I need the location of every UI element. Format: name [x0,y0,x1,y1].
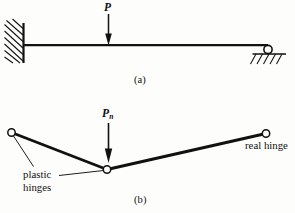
leader-line-plastic-hinge-mid [59,171,104,176]
real-hinge-annotation: real hinge [245,140,288,152]
load-label-b-subscript: n [109,112,113,121]
load-arrow-head-b [105,149,112,164]
plastic-hinge-mid-circle [103,166,110,173]
roller-support [251,45,287,64]
load-label-a: P [104,1,111,13]
real-hinge-circle [262,130,269,137]
caption-b: (b) [134,194,147,205]
caption-a: (a) [134,74,146,85]
figure-container: P (a) Pn plastic hinges real hinge (b) [0,0,295,213]
point-load-arrow-b [105,123,112,163]
load-arrow-head-a [105,34,112,46]
mechanism-segment-left [12,133,108,170]
plastic-hinge-left-circle [8,129,15,136]
plastic-hinges-annotation: plastic hinges [23,168,51,194]
roller-circle [264,45,272,53]
plastic-hinges-line-2: hinges [23,181,51,194]
wall-hatching [5,19,24,63]
fixed-support-wall [5,19,24,63]
panel-a-group [5,14,287,64]
load-label-b: Pn [102,107,113,119]
point-load-arrow-a [105,14,112,45]
roller-ground-hatching [251,54,283,64]
plastic-hinges-line-1: plastic [23,168,51,181]
mechanism-segment-right [107,134,266,170]
load-label-b-base: P [102,107,109,119]
